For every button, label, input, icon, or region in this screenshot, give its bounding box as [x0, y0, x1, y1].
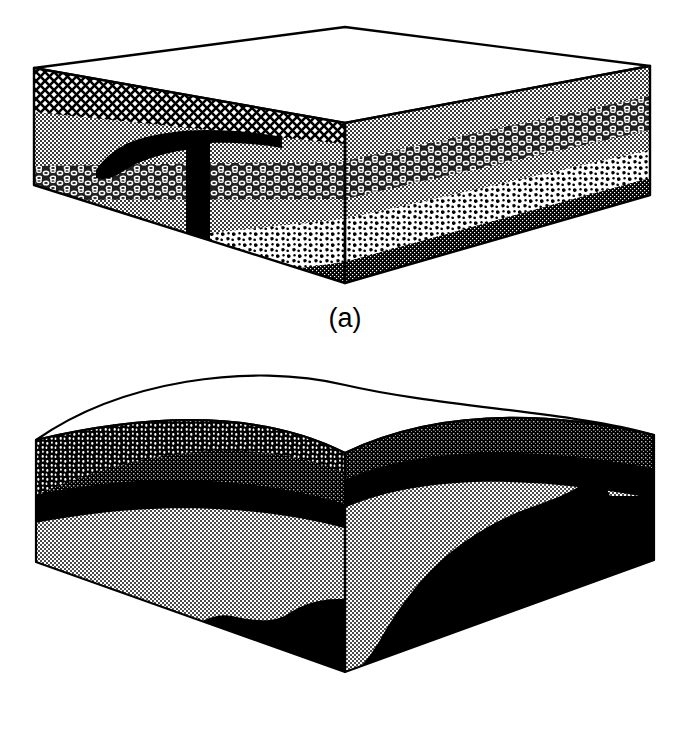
layer-basal-dark-left: [186, 262, 345, 300]
block-diagram-a: (a): [0, 0, 690, 375]
block-diagram-b: (b): [0, 370, 690, 749]
panel-caption-a: (a): [0, 303, 690, 334]
block-b-svg: [0, 370, 690, 749]
figure-root: (a): [0, 0, 690, 749]
